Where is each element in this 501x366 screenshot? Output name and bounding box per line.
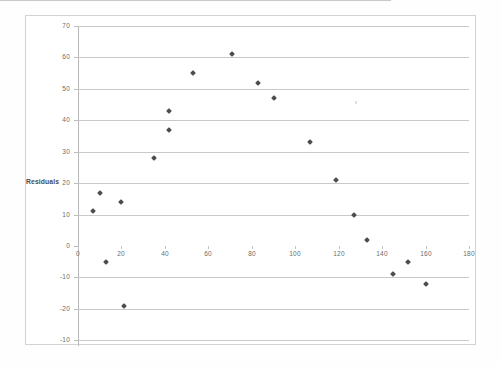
y-tick-mark [74,152,78,153]
data-point [119,199,125,205]
x-tick-mark [426,246,427,249]
y-tick-label: -10 [44,336,70,343]
y-tick-label: 0 [44,242,70,249]
x-tick-mark [121,246,122,249]
x-tick-label: 160 [414,250,438,257]
gridline [78,340,469,341]
y-tick-mark [74,340,78,341]
x-tick-label: 120 [327,250,351,257]
y-tick-label: 50 [44,85,70,92]
data-point [364,237,370,243]
x-tick-label: 100 [283,250,307,257]
y-tick-mark [74,215,78,216]
y-tick-label: 60 [44,53,70,60]
x-tick-label: 60 [196,250,220,257]
x-tick-mark [469,246,470,249]
x-tick-mark [339,246,340,249]
x-tick-label: 40 [153,250,177,257]
y-axis-line [78,26,79,346]
gridline [78,26,469,27]
data-point [97,190,103,196]
gridline [78,309,469,310]
x-tick-label: 140 [370,250,394,257]
data-point [255,80,261,86]
data-point [166,108,172,114]
x-tick-mark [382,246,383,249]
data-point [423,281,429,287]
y-tick-mark [74,183,78,184]
y-tick-label: 70 [44,22,70,29]
x-tick-label: 20 [109,250,133,257]
y-tick-mark [74,309,78,310]
gridline [78,152,469,153]
residual-scatter-plot: Residuals 706050403020100-10-20-10 02040… [0,0,501,366]
data-point [103,259,109,265]
data-point [121,303,127,309]
gridline [78,277,469,278]
data-point [271,95,277,101]
data-point [308,139,314,145]
data-point [151,155,157,161]
y-tick-label: -20 [44,305,70,312]
data-point [334,177,340,183]
x-tick-mark [252,246,253,249]
y-tick-label: 20 [44,179,70,186]
x-tick-mark [295,246,296,249]
scan-speck-artifact [355,101,357,104]
y-tick-label: -10 [44,273,70,280]
y-tick-mark [74,57,78,58]
gridline [78,183,469,184]
y-tick-mark [74,26,78,27]
data-point [190,70,196,76]
y-tick-label: 40 [44,116,70,123]
y-tick-mark [74,120,78,121]
x-tick-mark [78,246,79,249]
x-axis-line [0,0,391,1]
data-point [166,127,172,133]
y-tick-mark [74,277,78,278]
gridline [78,57,469,58]
x-tick-mark [165,246,166,249]
scanned-page-background: Residuals 706050403020100-10-20-10 02040… [0,0,501,366]
data-point [90,209,96,215]
y-tick-label: 30 [44,148,70,155]
y-tick-label: 10 [44,211,70,218]
x-tick-label: 0 [66,250,90,257]
y-tick-mark [74,89,78,90]
x-tick-label: 180 [457,250,481,257]
gridline [78,120,469,121]
gridline [78,89,469,90]
gridline [78,215,469,216]
x-tick-label: 80 [240,250,264,257]
data-point [405,259,411,265]
data-point [351,212,357,218]
x-tick-mark [208,246,209,249]
